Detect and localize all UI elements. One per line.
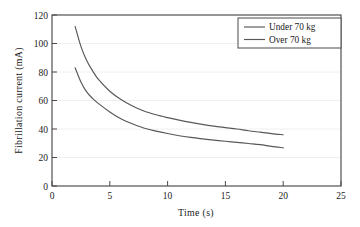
x-axis-tick-labels: 0 5 10 15 20 25 [50, 191, 346, 201]
y-tick-label: 120 [34, 11, 49, 21]
y-axis-title: Fibrillation current (mA) [13, 47, 25, 154]
x-axis-title: Time (s) [178, 207, 214, 219]
y-tick-label: 80 [39, 68, 49, 78]
fibrillation-current-line-chart: 120 100 80 60 40 20 0 0 5 10 15 20 25 Ti… [0, 0, 360, 227]
y-axis-tick-labels: 120 100 80 60 40 20 0 [34, 11, 49, 192]
chart-figure: 120 100 80 60 40 20 0 0 5 10 15 20 25 Ti… [0, 0, 360, 227]
x-tick-label: 5 [107, 191, 112, 201]
y-tick-label: 0 [43, 182, 48, 192]
x-tick-label: 20 [278, 191, 288, 201]
y-tick-label: 40 [39, 125, 49, 135]
y-tick-label: 100 [34, 39, 49, 49]
legend-label-over-70kg: Over 70 kg [269, 35, 311, 45]
legend-label-under-70kg: Under 70 kg [269, 22, 316, 32]
x-tick-label: 25 [336, 191, 346, 201]
y-tick-label: 20 [39, 153, 49, 163]
x-tick-label: 15 [221, 191, 231, 201]
y-tick-label: 60 [39, 96, 49, 106]
x-tick-label: 0 [50, 191, 55, 201]
x-tick-label: 10 [163, 191, 173, 201]
chart-legend: Under 70 kg Over 70 kg [238, 18, 341, 48]
